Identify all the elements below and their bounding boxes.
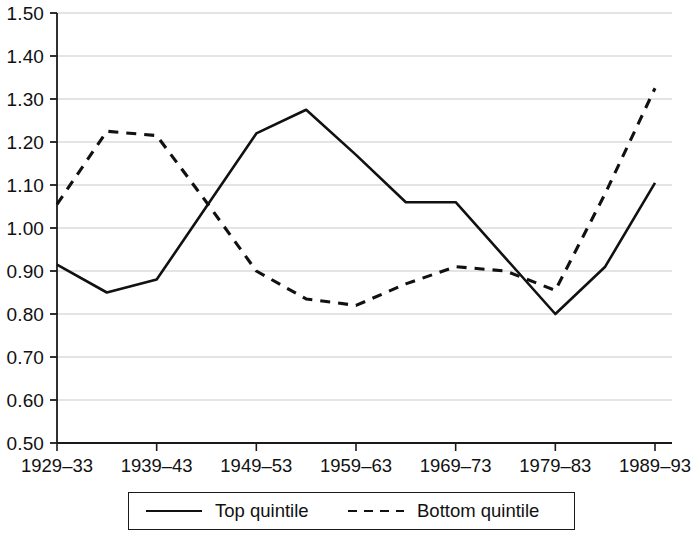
gridlines	[57, 13, 672, 400]
x-axis-tick-label: 1959–63	[301, 457, 411, 476]
x-axis-tick-label: 1969–73	[401, 457, 511, 476]
y-axis-tick-label: 1.30	[0, 90, 44, 109]
y-axis-tick-label: 1.10	[0, 176, 44, 195]
y-axis-tick-label: 0.50	[0, 434, 44, 453]
x-axis-tick-label: 1989–93	[600, 457, 695, 476]
y-axis-tick-label: 0.90	[0, 262, 44, 281]
x-axis-tick-marks	[57, 443, 655, 451]
y-axis-tick-label: 1.00	[0, 219, 44, 238]
x-axis-tick-label: 1979–83	[500, 457, 610, 476]
x-axis-tick-label: 1949–53	[201, 457, 311, 476]
legend-label-bottom-quintile: Bottom quintile	[417, 500, 539, 522]
y-axis-tick-label: 0.60	[0, 391, 44, 410]
y-axis-tick-label: 1.50	[0, 4, 44, 23]
y-axis-tick-marks	[50, 13, 57, 443]
chart-legend: Top quintile Bottom quintile	[128, 492, 575, 530]
y-axis-tick-label: 1.20	[0, 133, 44, 152]
data-series-group	[57, 88, 655, 314]
legend-item-top-quintile: Top quintile	[145, 493, 309, 529]
x-axis-tick-label: 1939–43	[102, 457, 212, 476]
legend-item-bottom-quintile: Bottom quintile	[347, 493, 539, 529]
x-axis-tick-label: 1929–33	[2, 457, 112, 476]
y-axis-tick-label: 1.40	[0, 47, 44, 66]
y-axis-tick-label: 0.80	[0, 305, 44, 324]
legend-label-top-quintile: Top quintile	[215, 500, 309, 522]
series-line-bottom-quintile	[57, 88, 655, 305]
series-line-top-quintile	[57, 110, 655, 314]
legend-line-swatch-solid	[145, 505, 203, 517]
legend-line-swatch-dashed	[347, 505, 405, 517]
y-axis-tick-label: 0.70	[0, 348, 44, 367]
